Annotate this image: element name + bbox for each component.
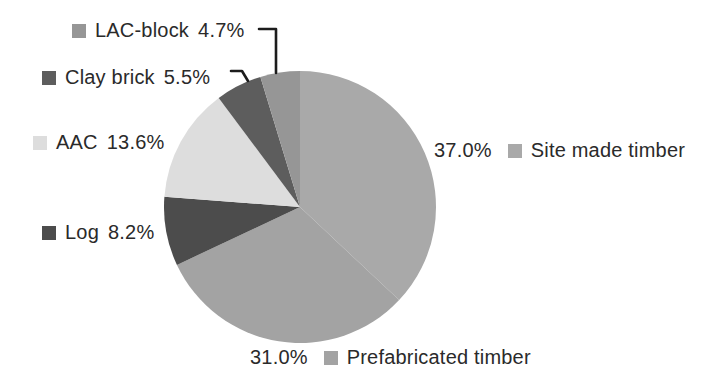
legend-swatch-clay-brick — [42, 71, 56, 85]
legend-pct-log: 8.2% — [108, 221, 154, 244]
legend-swatch-site-made-timber — [508, 144, 522, 158]
legend-item-site-made-timber: 37.0% Site made timber — [434, 139, 685, 162]
legend-swatch-lac-block — [72, 24, 86, 38]
legend-pct-prefabricated-timber: 31.0% — [250, 346, 308, 369]
legend-label-site-made-timber: Site made timber — [531, 139, 685, 162]
legend-item-aac: AAC 13.6% — [33, 131, 164, 154]
legend-label-log: Log — [65, 221, 99, 244]
pie — [164, 71, 436, 343]
legend-pct-aac: 13.6% — [107, 131, 165, 154]
callout-line-lac-block — [259, 29, 276, 73]
legend-item-prefabricated-timber: 31.0% Prefabricated timber — [250, 346, 531, 369]
legend-label-prefabricated-timber: Prefabricated timber — [347, 346, 531, 369]
legend-label-lac-block: LAC-block — [95, 19, 189, 42]
legend-item-lac-block: LAC-block 4.7% — [72, 19, 244, 42]
legend-swatch-aac — [33, 136, 47, 150]
legend-swatch-prefabricated-timber — [324, 351, 338, 365]
legend-item-clay-brick: Clay brick 5.5% — [42, 66, 210, 89]
legend-label-clay-brick: Clay brick — [65, 66, 155, 89]
legend-pct-lac-block: 4.7% — [198, 19, 244, 42]
pie-chart-svg — [0, 0, 724, 378]
callout-line-clay-brick — [231, 71, 248, 81]
legend-pct-clay-brick: 5.5% — [164, 66, 210, 89]
legend-swatch-log — [42, 226, 56, 240]
pie-chart-figure: LAC-block 4.7% Clay brick 5.5% AAC 13.6%… — [0, 0, 724, 378]
legend-pct-site-made-timber: 37.0% — [434, 139, 492, 162]
legend-label-aac: AAC — [56, 131, 98, 154]
legend-item-log: Log 8.2% — [42, 221, 154, 244]
